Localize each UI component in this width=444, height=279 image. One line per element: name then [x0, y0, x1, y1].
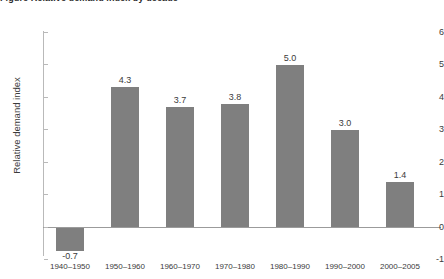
- x-tick-label-1940-1950: 1940–1950: [39, 262, 101, 272]
- y-tick-mark-2: [44, 162, 48, 163]
- y-tick-mark-3: [44, 129, 48, 130]
- y-tick-mark-4: [44, 97, 48, 98]
- y-tick-mark-6: [44, 32, 48, 33]
- bar-1990-2000[interactable]: [331, 130, 359, 227]
- zero-baseline: [43, 227, 441, 228]
- x-tick-label-1970-1980: 1970–1980: [204, 262, 266, 272]
- y-tick-label-3: 3: [408, 125, 444, 134]
- x-tick-label-1960-1970: 1960–1970: [149, 262, 211, 272]
- x-tick-label-1990-2000: 1990–2000: [314, 262, 376, 272]
- x-tick-label-1980-1990: 1980–1990: [259, 262, 321, 272]
- bar-2000-2005[interactable]: [386, 182, 414, 227]
- y-axis-label: Relative demand index: [11, 36, 22, 216]
- y-tick-mark-0: [44, 227, 48, 228]
- bar-1960-1970[interactable]: [166, 107, 194, 227]
- bar-1980-1990[interactable]: [276, 65, 304, 227]
- chart-figure: Figure Relative demand index by decade 6…: [0, 0, 444, 279]
- bar-1950-1960[interactable]: [111, 87, 139, 227]
- bar-value-2000-2005: 1.4: [376, 170, 424, 180]
- bar-1940-1950[interactable]: [56, 228, 84, 251]
- y-tick-label-6: 6: [408, 28, 444, 37]
- bar-value-1940-1950: -0.7: [46, 251, 94, 261]
- y-tick-label-5: 5: [408, 60, 444, 69]
- y-tick-mark-1: [44, 194, 48, 195]
- bar-value-1990-2000: 3.0: [321, 118, 369, 128]
- y-tick-label-2: 2: [408, 158, 444, 167]
- bar-1970-1980[interactable]: [221, 104, 249, 227]
- y-tick-label-4: 4: [408, 93, 444, 102]
- bar-value-1970-1980: 3.8: [211, 92, 259, 102]
- x-tick-label-2000-2005: 2000–2005: [369, 262, 431, 272]
- bar-value-1950-1960: 4.3: [101, 75, 149, 85]
- y-tick-mark-5: [44, 64, 48, 65]
- bar-value-1980-1990: 5.0: [266, 53, 314, 63]
- x-tick-label-1950-1960: 1950–1960: [94, 262, 156, 272]
- plot-area: 6 5 4 3 2 1 0 -1 Relative demand index -…: [0, 0, 444, 279]
- bar-value-1960-1970: 3.7: [156, 95, 204, 105]
